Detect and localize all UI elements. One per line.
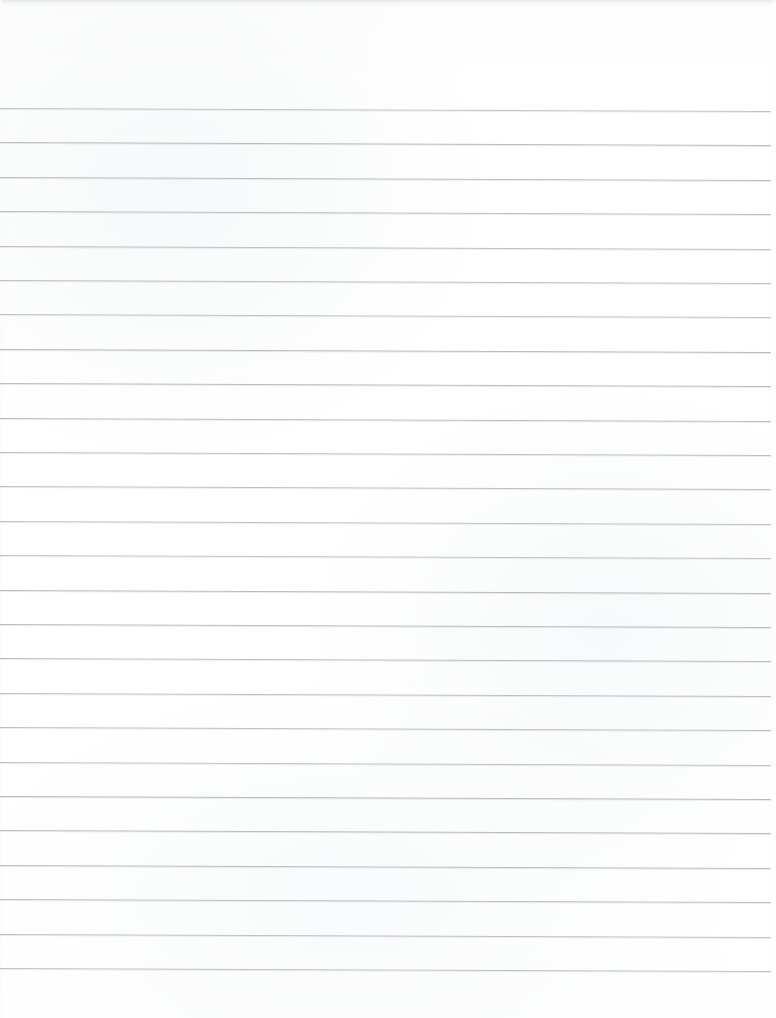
scanned-page [0,0,776,1018]
ruled-line [0,727,771,731]
ruled-line [0,314,771,318]
scan-top-edge-band [0,0,776,7]
ruled-line [0,177,771,181]
ruled-line [0,865,771,869]
ruled-line [0,796,771,800]
ruled-line [0,452,771,456]
ruled-line [0,349,771,353]
ruled-line [0,142,771,146]
ruled-line [0,658,771,662]
ruled-line [0,590,771,594]
ruled-line-layer [0,0,776,1018]
ruled-line [0,280,771,284]
page-text-content [0,0,1,1]
ruled-line [0,968,771,972]
ruled-line [0,830,771,834]
ruled-line [0,521,771,525]
ruled-line [0,383,771,387]
ruled-line [0,486,771,490]
ruled-line [0,555,771,559]
ruled-line [0,624,771,628]
ruled-line [0,693,771,697]
ruled-line [0,899,771,903]
ruled-line [0,934,771,938]
scan-left-gutter [0,0,4,1018]
ruled-line [0,762,771,766]
scan-right-gutter [769,0,776,1018]
ruled-line [0,211,771,215]
paper-surface [0,0,776,1018]
ruled-line [0,246,771,250]
ruled-line [0,108,771,112]
ruled-line [0,418,771,422]
